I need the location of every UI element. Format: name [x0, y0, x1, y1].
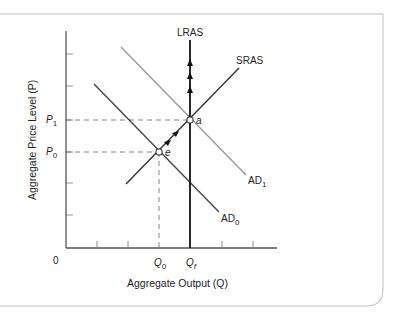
ad1-label: AD1: [248, 175, 267, 189]
x-axis-title: Aggregate Output (Q): [127, 277, 228, 289]
ad0-label: AD0: [221, 213, 240, 227]
x-axis: [66, 241, 277, 248]
point-a-label: a: [196, 115, 202, 126]
y-axis-title: Aggregate Price Level (P): [26, 80, 38, 200]
ad0-curve: [94, 84, 219, 212]
sras-label: SRAS: [236, 55, 264, 66]
qf-label: Qf: [186, 257, 197, 271]
guide-lines: [66, 120, 190, 248]
point-a-marker: [187, 117, 193, 123]
lras-arrows: [187, 59, 193, 93]
ad-as-diagram: LRAS SRAS AD1 AD0 e a P1 P0 0 Q0 Qf Aggr…: [0, 0, 400, 323]
q0-label: Q0: [154, 257, 167, 271]
p1-label: P1: [46, 114, 58, 128]
sras-curve: [126, 68, 239, 184]
lras-label: LRAS: [177, 27, 203, 38]
sras-arrows: [164, 131, 179, 146]
origin-label: 0: [53, 255, 59, 266]
p0-label: P0: [46, 146, 58, 160]
ad1-curve: [121, 47, 246, 175]
point-e-marker: [156, 149, 162, 155]
y-axis: [66, 31, 73, 248]
point-e-label: e: [165, 147, 171, 158]
